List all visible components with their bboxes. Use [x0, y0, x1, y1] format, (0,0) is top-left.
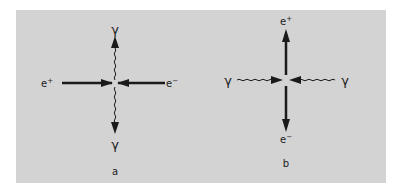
label-left-a: e+ — [41, 77, 53, 89]
photon-down-a — [111, 87, 119, 134]
caption-a: a — [112, 166, 118, 177]
label-right-b: γ — [341, 73, 349, 88]
label-right-a: e− — [166, 77, 178, 89]
diagram-a: γ γ e+ e− a — [41, 22, 178, 177]
feynman-diagrams: γ γ e+ e− a γ γ e+ e− b — [0, 0, 402, 193]
label-top-b: e+ — [280, 15, 292, 27]
electron-line-b — [282, 86, 290, 132]
photon-right-b — [289, 76, 335, 84]
electron-line-a — [117, 79, 165, 87]
label-bottom-b: e− — [280, 133, 292, 145]
label-bottom-a: γ — [111, 137, 119, 152]
positron-line-b — [282, 29, 290, 75]
label-left-b: γ — [224, 73, 232, 88]
photon-up-a — [111, 36, 119, 80]
caption-b: b — [283, 158, 289, 169]
photon-left-b — [237, 76, 283, 84]
diagram-b: γ γ e+ e− b — [224, 15, 349, 169]
label-top-a: γ — [111, 22, 119, 37]
positron-line-a — [62, 79, 113, 87]
